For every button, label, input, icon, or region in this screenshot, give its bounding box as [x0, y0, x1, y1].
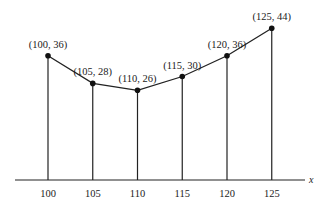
point-label: (115, 30) — [163, 60, 202, 72]
series-line — [48, 28, 272, 90]
x-tick-labels: 100105110115120125 — [40, 188, 280, 199]
x-tick-label: 115 — [175, 188, 190, 199]
point-label: (105, 28) — [74, 66, 113, 78]
drop-lines — [48, 28, 272, 180]
x-tick-label: 125 — [264, 188, 280, 199]
line-chart: (100, 36)(105, 28)(110, 26)(115, 30)(120… — [0, 0, 327, 203]
data-point — [179, 74, 185, 80]
data-point — [45, 53, 51, 59]
data-point — [135, 88, 141, 94]
data-point — [224, 53, 230, 59]
point-label: (110, 26) — [118, 73, 157, 85]
x-tick-label: 100 — [40, 188, 56, 199]
point-labels: (100, 36)(105, 28)(110, 26)(115, 30)(120… — [29, 11, 292, 85]
point-label: (125, 44) — [253, 11, 292, 23]
data-point — [269, 25, 275, 31]
x-tick-label: 110 — [130, 188, 145, 199]
point-label: (100, 36) — [29, 39, 68, 51]
x-tick-label: 120 — [219, 188, 235, 199]
x-axis-label: x — [308, 174, 314, 185]
point-label: (120, 36) — [208, 39, 247, 51]
data-point — [90, 81, 96, 87]
x-tick-label: 105 — [85, 188, 101, 199]
